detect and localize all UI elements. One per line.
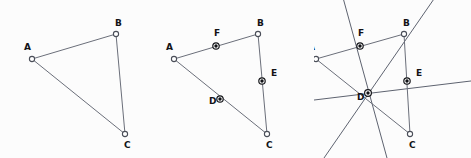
midpoint-E bbox=[405, 79, 408, 82]
panel-triangle-with-perpendicular-bisectors: A B C F E D bbox=[314, 0, 471, 158]
panel-1-vertices bbox=[29, 31, 127, 136]
vertex-label-A: A bbox=[314, 42, 315, 52]
vertex-A bbox=[29, 56, 34, 61]
vertex-B bbox=[113, 31, 118, 36]
panel-3-bisectors bbox=[314, 0, 471, 158]
vertex-label-C: C bbox=[409, 140, 416, 150]
side-BC bbox=[116, 34, 125, 134]
vertex-C bbox=[122, 131, 127, 136]
vertex-C bbox=[407, 131, 412, 136]
midpoint-F bbox=[358, 44, 361, 47]
panel-1-labels: A B C bbox=[24, 18, 131, 150]
bisector-of-BC bbox=[314, 81, 471, 101]
panel-2-vertices bbox=[171, 31, 269, 136]
midpoint-E bbox=[260, 79, 263, 82]
vertex-A bbox=[314, 56, 319, 61]
panel-1-svg: A B C bbox=[0, 0, 157, 158]
midpoint-F bbox=[214, 44, 217, 47]
side-CA bbox=[32, 59, 125, 134]
figure-canvas: A B C bbox=[0, 0, 471, 158]
vertex-label-B: B bbox=[403, 18, 410, 28]
circumcenter-D bbox=[366, 91, 369, 94]
midpoint-label-D: D bbox=[209, 96, 216, 106]
vertex-C bbox=[264, 131, 269, 136]
bisector-of-AB bbox=[342, 0, 387, 158]
vertex-label-A: A bbox=[166, 42, 173, 52]
panel-2-midpoints bbox=[213, 43, 265, 102]
midpoint-label-E: E bbox=[271, 68, 277, 78]
vertex-label-C: C bbox=[266, 140, 273, 150]
vertex-label-C: C bbox=[124, 140, 131, 150]
vertex-A bbox=[171, 56, 176, 61]
panel-1-edges bbox=[32, 34, 125, 134]
midpoint-D bbox=[218, 97, 221, 100]
panel-2-svg: A B C F E D bbox=[157, 0, 314, 158]
vertex-label-B: B bbox=[115, 18, 122, 28]
vertex-label-B: B bbox=[257, 18, 264, 28]
vertex-B bbox=[401, 31, 406, 36]
midpoint-label-F: F bbox=[358, 28, 364, 38]
panel-triangle-with-midpoints: A B C F E D bbox=[157, 0, 314, 158]
vertex-label-A: A bbox=[24, 42, 31, 52]
panel-3-svg: A B C F E D bbox=[314, 0, 471, 158]
side-AB bbox=[32, 34, 116, 59]
midpoint-label-D: D bbox=[357, 92, 364, 102]
vertex-B bbox=[255, 31, 260, 36]
midpoint-label-E: E bbox=[416, 68, 422, 78]
panel-triangle-only: A B C bbox=[0, 0, 157, 158]
panel-3-edges bbox=[316, 34, 410, 134]
midpoint-label-F: F bbox=[214, 28, 220, 38]
panel-2-edges bbox=[174, 34, 267, 134]
panel-3-midpoints bbox=[357, 43, 410, 97]
